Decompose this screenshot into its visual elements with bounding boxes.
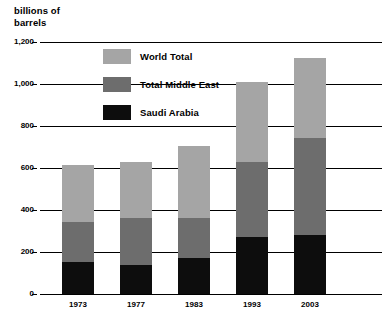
y-axis-tick-mark [32, 210, 37, 211]
y-axis-tick-label: 800 [0, 122, 34, 130]
y-axis-tick-mark [32, 168, 37, 169]
legend-swatch [103, 77, 131, 92]
x-axis-tick-label: 1977 [114, 300, 158, 309]
y-axis-tick-mark [32, 84, 37, 85]
chart-legend: World TotalTotal Middle EastSaudi Arabia [103, 48, 283, 132]
bar-segment [62, 262, 94, 294]
x-axis-tick-label: 2003 [288, 300, 332, 309]
y-axis-tick-label: 1,000 [0, 80, 34, 88]
x-axis-tick-label: 1983 [172, 300, 216, 309]
y-axis-tick-labels: 02004006008001,0001,200 [0, 42, 34, 294]
gridline [40, 294, 382, 295]
y-axis-title: billions of barrels [14, 5, 124, 28]
legend-label: Total Middle East [140, 79, 219, 90]
y-axis-tick-label: 1,200 [0, 38, 34, 46]
bar-segment [120, 265, 152, 294]
gridline [40, 42, 382, 43]
bar-segment [236, 237, 268, 294]
legend-item: Saudi Arabia [103, 104, 283, 122]
y-axis-tick-label: 0 [0, 290, 34, 298]
legend-item: World Total [103, 48, 283, 66]
legend-label: World Total [140, 51, 192, 62]
y-axis-tick-mark [32, 294, 37, 295]
y-axis-tick-label: 400 [0, 206, 34, 214]
x-axis-tick-labels: 19731977198319932003 [40, 300, 382, 314]
legend-swatch [103, 105, 131, 120]
y-axis-tick-label: 600 [0, 164, 34, 172]
bar-segment [294, 235, 326, 294]
legend-item: Total Middle East [103, 76, 283, 94]
legend-label: Saudi Arabia [140, 107, 199, 118]
y-axis-tick-mark [32, 42, 37, 43]
x-axis-tick-label: 1973 [56, 300, 100, 309]
oil-reserves-stacked-bar-chart: billions of barrels 02004006008001,0001,… [0, 0, 392, 328]
y-axis-tick-label: 200 [0, 248, 34, 256]
y-axis-tick-mark [32, 126, 37, 127]
x-axis-tick-label: 1993 [230, 300, 274, 309]
bar-segment [178, 258, 210, 294]
y-axis-tick-mark [32, 252, 37, 253]
legend-swatch [103, 49, 131, 64]
